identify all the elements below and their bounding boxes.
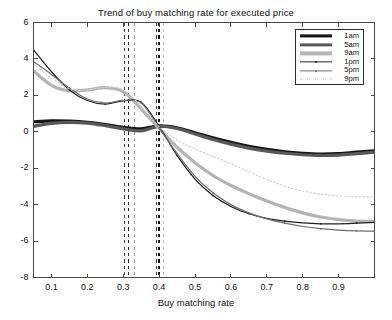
series-marker [104, 102, 106, 104]
legend-marker [315, 70, 317, 72]
y-tick-label: -8 [7, 272, 29, 282]
x-tick-label: 0.8 [286, 282, 320, 292]
y-tick-label: 2 [7, 89, 29, 99]
x-tick-label: 0.5 [178, 282, 212, 292]
y-tick-label: 4 [7, 53, 29, 63]
y-tick-label: -2 [7, 162, 29, 172]
legend-swatch-5am [299, 41, 333, 50]
series-marker [284, 220, 286, 222]
series-marker [212, 195, 214, 197]
y-tick-label: 6 [7, 17, 29, 27]
y-tick-label: -6 [7, 235, 29, 245]
series-marker [284, 222, 286, 224]
legend-item-9pm[interactable]: 9pm [299, 75, 360, 84]
x-tick-label: 0.7 [250, 282, 284, 292]
x-tick-label: 0.9 [322, 282, 356, 292]
series-marker [356, 222, 358, 224]
series-marker [356, 230, 358, 232]
legend-swatch-1pm [299, 58, 333, 67]
legend-swatch-5pm [299, 66, 333, 75]
chart-legend[interactable]: 1am5am9am1pm5pm9pm [295, 29, 364, 85]
x-axis-label: Buy matching rate [0, 297, 392, 308]
legend-label: 9pm [333, 75, 360, 84]
series-marker [248, 212, 250, 214]
y-tick-label: 0 [7, 126, 29, 136]
series-marker [320, 223, 322, 225]
y-tick-label: -4 [7, 199, 29, 209]
x-tick-label: 0.6 [214, 282, 248, 292]
legend-swatch-9pm [299, 75, 333, 84]
series-marker [212, 192, 214, 194]
x-tick-label: 0.3 [106, 282, 140, 292]
legend-marker [315, 61, 317, 63]
series-marker [176, 153, 178, 155]
legend-swatch-1am [299, 32, 333, 41]
x-tick-label: 0.1 [34, 282, 68, 292]
series-marker [320, 228, 322, 230]
series-marker [140, 102, 142, 104]
chart-figure: Trend of buy matching rate for executed … [0, 0, 392, 320]
x-tick-label: 0.4 [142, 282, 176, 292]
legend-swatch-9am [299, 49, 333, 58]
x-tick-label: 0.2 [70, 282, 104, 292]
